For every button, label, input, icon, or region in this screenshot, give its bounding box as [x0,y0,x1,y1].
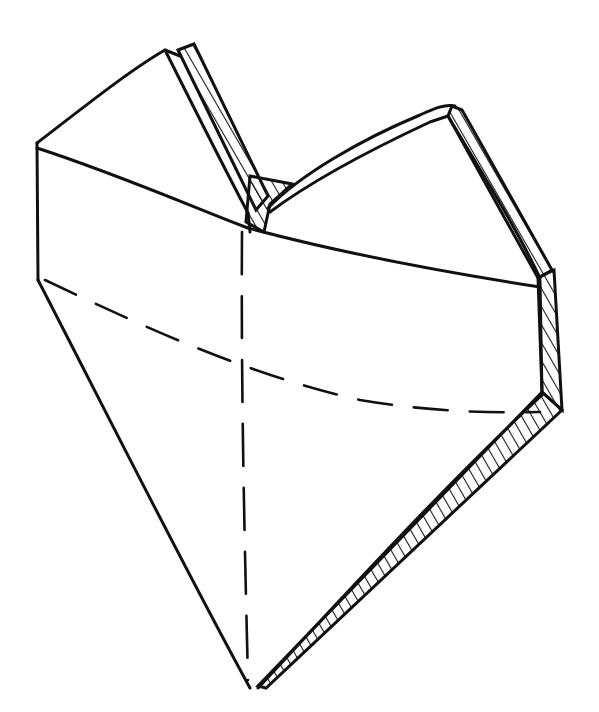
dashed-horizontal [45,280,540,412]
left-lobe-top [37,50,180,143]
heart-sketch [0,0,599,712]
belt-line [37,148,540,287]
left-side-diagonal [38,280,250,688]
left-side-vertical [37,143,38,280]
right-inner-vertical [540,280,542,395]
dashed-vertical [242,232,248,680]
hatched-band-notch [246,176,292,232]
hatched-bands [178,44,562,688]
hatched-band-right-lobe [448,106,552,278]
notch-vertical [248,213,250,232]
heart-outline [37,50,542,688]
right-lobe-top-inner [270,116,448,212]
hidden-lines [45,232,540,680]
hatched-band-bottom-edge [258,392,562,688]
